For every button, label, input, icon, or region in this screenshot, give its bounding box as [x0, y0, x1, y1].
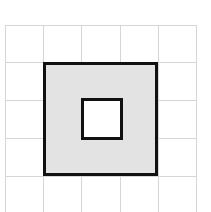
- figure-root: [0, 0, 211, 212]
- inner-square-hole: [81, 98, 123, 140]
- shape-layer: [0, 0, 211, 212]
